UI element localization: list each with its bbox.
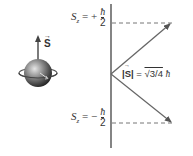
sphere [24, 59, 52, 87]
electron-sphere-icon [19, 35, 57, 87]
lower-state-label: Sz = − ħ 2 [71, 107, 105, 128]
spin-up-vector [111, 24, 170, 74]
spin-down-vector [111, 74, 171, 122]
spin-magnitude-label: → |S| = √3/4 ħ [122, 68, 170, 79]
upper-state-label: Sz = + ħ 2 [71, 7, 105, 28]
lower-fraction: ħ 2 [100, 107, 106, 128]
spin-vector-label: → S [44, 38, 51, 49]
upper-fraction: ħ 2 [100, 7, 106, 28]
